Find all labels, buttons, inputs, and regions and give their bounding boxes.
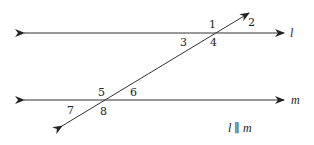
angle-1-label: 1	[209, 18, 216, 31]
angle-2-label: 2	[248, 16, 255, 29]
angle-4-label: 4	[210, 36, 217, 49]
angle-8-label: 8	[100, 105, 107, 118]
angle-7-label: 7	[67, 104, 74, 117]
diagram-canvas: l m 1 2 3 4 5 6 7 8 l ∥ m	[0, 0, 314, 145]
transversal-line	[62, 13, 249, 126]
angle-3-label: 3	[180, 36, 187, 49]
line-m-label: m	[291, 93, 300, 107]
line-l-label: l	[290, 26, 294, 40]
parallel-caption: l ∥ m	[228, 121, 252, 135]
angle-5-label: 5	[98, 86, 105, 99]
angle-6-label: 6	[130, 86, 137, 99]
